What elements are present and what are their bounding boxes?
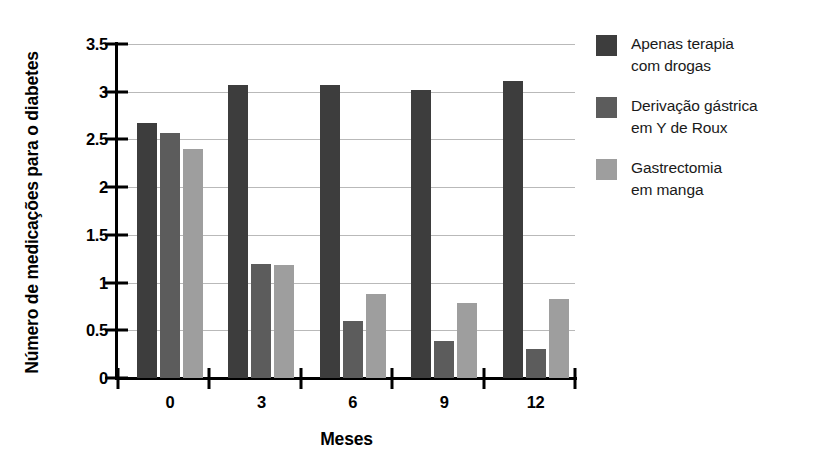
y-tick-label: 0.5 [44, 321, 108, 340]
y-tick-label: 1 [44, 273, 108, 292]
y-tick-mark [105, 233, 128, 236]
x-tick-mark [299, 368, 302, 389]
bar [343, 321, 363, 378]
plot-area [118, 44, 575, 378]
x-tick-mark [391, 368, 394, 389]
y-tick-label: 3.5 [44, 35, 108, 54]
bar [457, 303, 477, 378]
bar [549, 299, 569, 378]
y-tick-label: 2 [44, 178, 108, 197]
x-tick-label: 0 [140, 393, 200, 412]
legend-item[interactable]: Derivação gástrica em Y de Roux [596, 95, 758, 140]
y-axis-tick-labels: 00.511.522.533.5 [44, 0, 108, 476]
x-tick-mark [208, 368, 211, 389]
bar [526, 349, 546, 378]
y-tick-mark [105, 43, 128, 46]
x-tick-label: 6 [323, 393, 383, 412]
bar [411, 90, 431, 378]
bar [183, 149, 203, 378]
legend-item[interactable]: Apenas terapia com drogas [596, 33, 734, 78]
legend-color-swatch [596, 159, 617, 180]
y-tick-mark [105, 138, 128, 141]
legend-color-swatch [596, 35, 617, 56]
legend-color-swatch [596, 97, 617, 118]
x-tick-mark [574, 368, 577, 389]
y-axis-title: Número de medicações para o diabetes [22, 33, 43, 393]
legend-item[interactable]: Gastrectomia em manga [596, 157, 722, 202]
bar [503, 81, 523, 378]
y-tick-label: 1.5 [44, 225, 108, 244]
y-tick-mark [105, 281, 128, 284]
bar [320, 85, 340, 378]
y-tick-mark [105, 329, 128, 332]
bar [160, 133, 180, 378]
x-tick-label: 3 [231, 393, 291, 412]
bar [228, 85, 248, 378]
x-tick-mark [117, 368, 120, 389]
x-tick-label: 12 [506, 393, 566, 412]
bar-chart-figure: Número de medicações para o diabetes 00.… [0, 0, 829, 476]
bar [137, 123, 157, 378]
x-axis-title: Meses [118, 429, 575, 450]
x-tick-label: 9 [414, 393, 474, 412]
y-tick-label: 3 [44, 82, 108, 101]
legend-label: Apenas terapia com drogas [631, 33, 734, 78]
bar [274, 265, 294, 378]
gridline [118, 44, 575, 45]
bar [434, 341, 454, 378]
legend-label: Gastrectomia em manga [631, 157, 722, 202]
x-tick-mark [482, 368, 485, 389]
y-tick-label: 0 [44, 369, 108, 388]
bar [366, 294, 386, 378]
legend-label: Derivação gástrica em Y de Roux [631, 95, 758, 140]
y-tick-mark [105, 186, 128, 189]
bar [251, 264, 271, 378]
y-tick-label: 2.5 [44, 130, 108, 149]
y-tick-mark [105, 90, 128, 93]
